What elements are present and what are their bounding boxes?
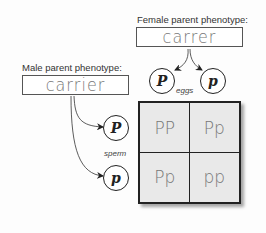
punnett-cell-2-1[interactable]: Pp <box>140 153 190 203</box>
egg-allele-1: P <box>149 68 175 94</box>
egg-allele-2: p <box>200 68 226 94</box>
sperm-label: sperm <box>104 149 126 158</box>
eggs-label: eggs <box>176 86 193 95</box>
sperm-allele-1: P <box>103 115 129 141</box>
punnett-square: PP Pp Pp pp <box>138 101 241 204</box>
punnett-cell-1-1[interactable]: PP <box>140 103 190 153</box>
grid-divider-horizontal <box>140 152 239 153</box>
punnett-cell-1-2[interactable]: Pp <box>190 103 240 153</box>
sperm-allele-2: p <box>103 165 129 191</box>
punnett-cell-2-2[interactable]: pp <box>190 153 240 203</box>
